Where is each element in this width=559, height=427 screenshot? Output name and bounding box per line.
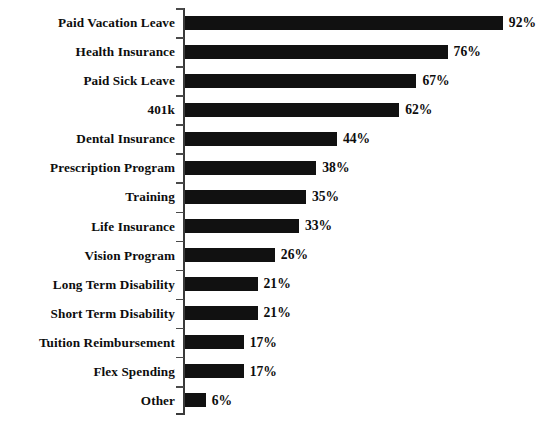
table-row: Prescription Program38% [0, 153, 559, 182]
axis-tick [176, 241, 184, 243]
category-label: Paid Vacation Leave [0, 8, 175, 37]
bar-value-label: 38% [322, 161, 349, 175]
table-row: Other6% [0, 386, 559, 415]
bar [185, 161, 316, 175]
bar-group: 6% [185, 386, 232, 415]
category-label: Dental Insurance [0, 124, 175, 153]
bar-group: 35% [185, 182, 339, 211]
category-label: Long Term Disability [0, 270, 175, 299]
category-label: Health Insurance [0, 37, 175, 66]
axis-tick [176, 386, 184, 388]
bar-chart: Paid Vacation Leave92%Health Insurance76… [0, 0, 559, 427]
bar-value-label: 76% [454, 45, 481, 59]
axis-tick [176, 270, 184, 272]
bar-value-label: 92% [509, 16, 536, 30]
table-row: Paid Sick Leave67% [0, 66, 559, 95]
table-row: Dental Insurance44% [0, 124, 559, 153]
bar [185, 364, 244, 378]
axis-tick [176, 153, 184, 155]
bar-value-label: 44% [343, 132, 370, 146]
bar [185, 277, 258, 291]
bar-value-label: 62% [405, 103, 432, 117]
bar-group: 33% [185, 212, 332, 241]
bar-value-label: 17% [250, 365, 277, 379]
table-row: Flex Spending17% [0, 357, 559, 386]
category-label: Tuition Reimbursement [0, 328, 175, 357]
axis-tick [176, 357, 184, 359]
category-label: 401k [0, 95, 175, 124]
axis-tick [176, 95, 184, 97]
category-label: Training [0, 182, 175, 211]
bar [185, 219, 299, 233]
bar [185, 103, 399, 117]
category-label: Life Insurance [0, 212, 175, 241]
bar-value-label: 67% [422, 74, 449, 88]
bar-value-label: 35% [312, 190, 339, 204]
bar [185, 335, 244, 349]
axis-tick [176, 37, 184, 39]
bar-rows: Paid Vacation Leave92%Health Insurance76… [0, 8, 559, 415]
table-row: Health Insurance76% [0, 37, 559, 66]
bar-group: 21% [185, 299, 291, 328]
axis-tick [176, 212, 184, 214]
category-label: Prescription Program [0, 153, 175, 182]
bar-group: 38% [185, 153, 349, 182]
table-row: Training35% [0, 182, 559, 211]
axis-tick [176, 66, 184, 68]
bar-group: 17% [185, 328, 277, 357]
bar [185, 190, 306, 204]
bar [185, 393, 206, 407]
table-row: Paid Vacation Leave92% [0, 8, 559, 37]
bar-group: 92% [185, 8, 536, 37]
axis-tick [176, 124, 184, 126]
axis-tick [176, 328, 184, 330]
axis-tick [176, 299, 184, 301]
bar-group: 21% [185, 270, 291, 299]
category-label: Flex Spending [0, 357, 175, 386]
axis-tick [176, 182, 184, 184]
bar [185, 132, 337, 146]
bar-value-label: 33% [305, 219, 332, 233]
bar-group: 26% [185, 241, 308, 270]
bar-value-label: 21% [264, 306, 291, 320]
bar-group: 44% [185, 124, 370, 153]
bar-value-label: 26% [281, 248, 308, 262]
bar [185, 16, 503, 30]
table-row: Short Term Disability21% [0, 299, 559, 328]
bar-group: 67% [185, 66, 450, 95]
bar [185, 248, 275, 262]
category-label: Other [0, 386, 175, 415]
category-label: Short Term Disability [0, 299, 175, 328]
table-row: Vision Program26% [0, 241, 559, 270]
bar [185, 45, 448, 59]
category-label: Vision Program [0, 241, 175, 270]
bar-value-label: 21% [264, 277, 291, 291]
bar-group: 62% [185, 95, 432, 124]
bar-value-label: 17% [250, 336, 277, 350]
table-row: Tuition Reimbursement17% [0, 328, 559, 357]
bar [185, 74, 416, 88]
bar-value-label: 6% [212, 394, 232, 408]
bar-group: 76% [185, 37, 481, 66]
table-row: Life Insurance33% [0, 212, 559, 241]
table-row: 401k62% [0, 95, 559, 124]
axis-tick [176, 8, 184, 10]
category-label: Paid Sick Leave [0, 66, 175, 95]
table-row: Long Term Disability21% [0, 270, 559, 299]
bar [185, 306, 258, 320]
bar-group: 17% [185, 357, 277, 386]
